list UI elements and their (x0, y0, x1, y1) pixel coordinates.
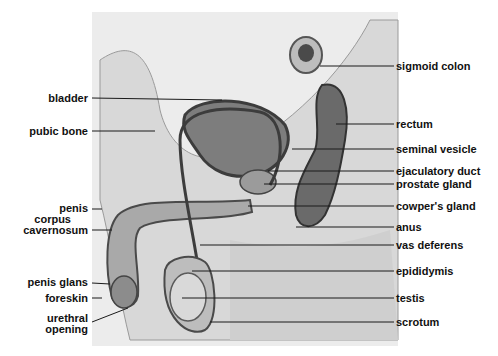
label-ejaculatory-duct: ejaculatory duct (396, 166, 480, 177)
label-testis: testis (396, 293, 425, 304)
label-cavernosum: cavernosum (23, 225, 88, 236)
testis-shape (170, 273, 206, 321)
label-cowpers-gland: cowper's gland (396, 201, 476, 212)
label-penis-glans: penis glans (27, 277, 88, 288)
label-scrotum: scrotum (396, 317, 439, 328)
label-epididymis: epididymis (396, 266, 453, 277)
label-anus: anus (396, 222, 422, 233)
glans-shape (111, 276, 137, 308)
sigmoid-colon-lumen (298, 44, 314, 62)
label-rectum: rectum (396, 119, 433, 130)
thigh-region (230, 230, 398, 340)
label-bladder: bladder (48, 93, 88, 104)
label-sigmoid-colon: sigmoid colon (396, 61, 471, 72)
label-pubic-bone: pubic bone (29, 126, 88, 137)
label-seminal-vesicle: seminal vesicle (396, 144, 477, 155)
label-prostate-gland: prostate gland (396, 179, 472, 190)
label-vas-deferens: vas deferens (396, 240, 463, 251)
label-opening: opening (45, 324, 88, 335)
label-foreskin: foreskin (45, 293, 88, 304)
